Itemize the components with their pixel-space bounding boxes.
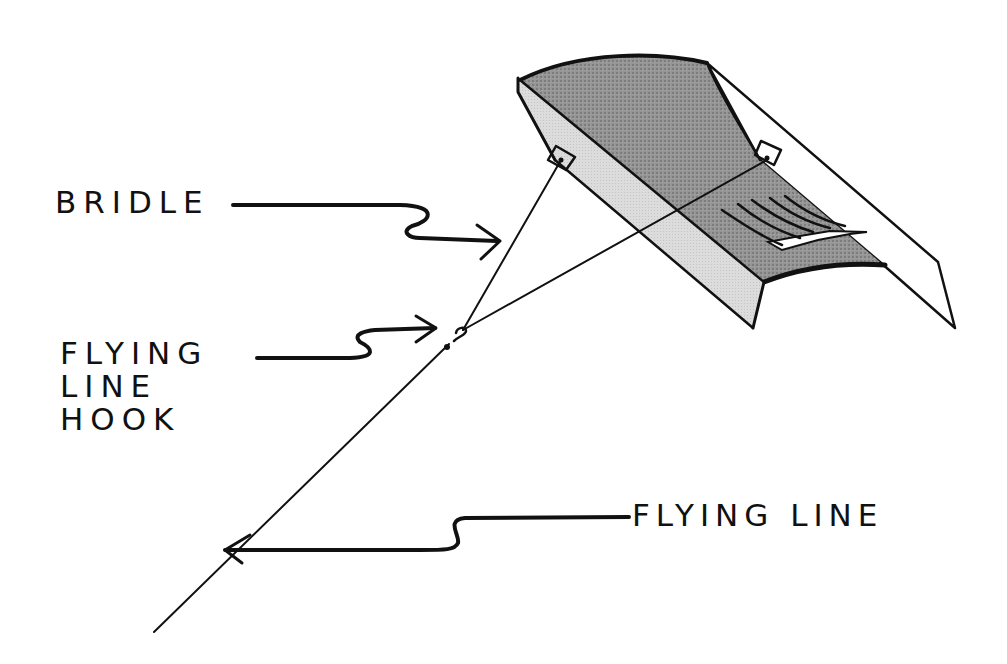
flying-line-label: FLYING LINE bbox=[632, 499, 883, 532]
bridle-label: BRIDLE bbox=[55, 186, 210, 219]
flying-line-label-text: FLYING LINE bbox=[632, 499, 883, 532]
hook-label-line2: LINE bbox=[60, 370, 208, 403]
hook-label-line3: HOOK bbox=[60, 403, 208, 436]
flying-line-hook-label: FLYING LINE HOOK bbox=[60, 337, 208, 436]
flying-line-arrow bbox=[225, 517, 629, 563]
bridle-arrow bbox=[233, 205, 500, 259]
hook-arrow bbox=[257, 316, 436, 358]
kite-diagram bbox=[0, 0, 1007, 664]
bridle-label-text: BRIDLE bbox=[55, 186, 210, 219]
hook-label-line1: FLYING bbox=[60, 337, 208, 370]
